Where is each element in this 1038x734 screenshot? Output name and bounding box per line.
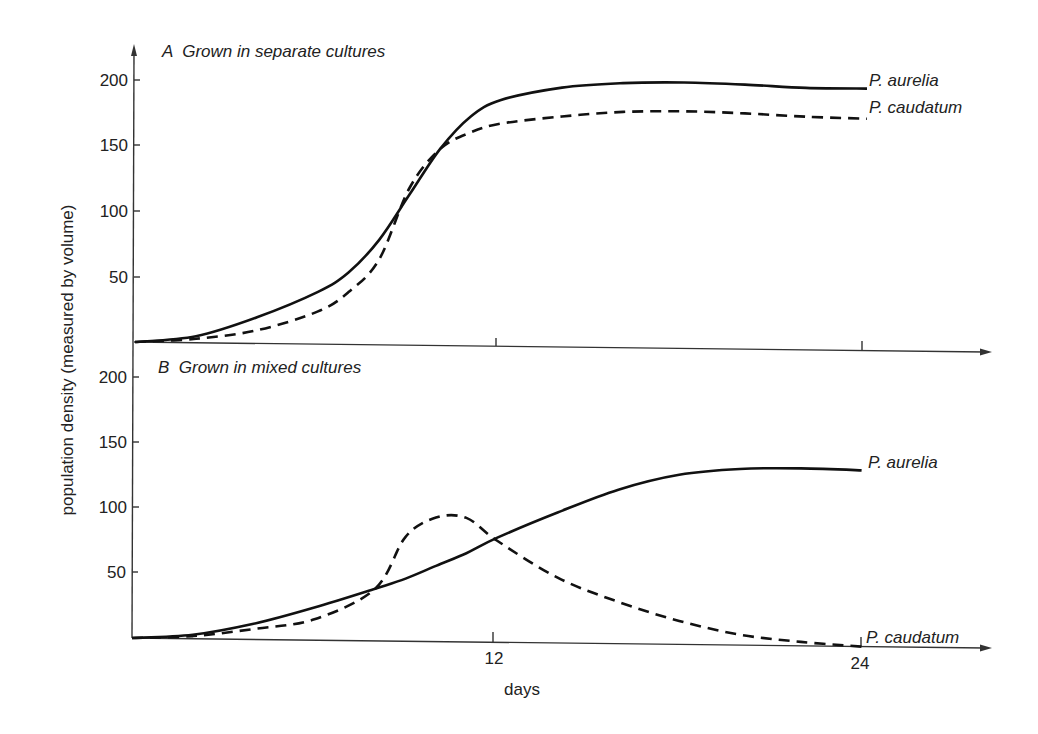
panel-a-aurelia-line [135, 82, 867, 342]
population-chart: 200 150 100 50 A Grown in separate cultu… [0, 0, 1038, 734]
panel-a-caudatum-label: P. caudatum [869, 98, 962, 117]
panel-b-x-axis-arrow-icon [980, 645, 992, 652]
panel-a-title: A Grown in separate cultures [161, 42, 386, 61]
panel-b-title: B Grown in mixed cultures [158, 358, 362, 377]
panel-a-x-axis [134, 342, 985, 352]
panel-a-x-axis-arrow-icon [980, 349, 992, 356]
panel-a-ytick-150: 150 [100, 136, 128, 155]
panel-a-ytick-200: 200 [100, 71, 128, 90]
y-axis [132, 52, 134, 638]
panel-b-caudatum-label: P. caudatum [866, 628, 959, 647]
xtick-12: 12 [485, 649, 504, 668]
panel-b-ytick-50: 50 [107, 563, 126, 582]
xtick-24: 24 [851, 654, 870, 673]
panel-a-ytick-100: 100 [100, 202, 128, 221]
x-axis-label: days [504, 680, 540, 699]
panel-b-aurelia-line [132, 468, 862, 638]
panel-a-aurelia-label: P. aurelia [869, 71, 939, 90]
panel-a-ytick-50: 50 [109, 268, 128, 287]
y-axis-label: population density (measured by volume) [58, 205, 77, 516]
panel-b-aurelia-label: P. aurelia [868, 453, 938, 472]
y-axis-arrow-icon [131, 44, 137, 56]
panel-a-caudatum-line [135, 111, 867, 342]
panel-b-ytick-150: 150 [99, 433, 127, 452]
panel-b-ytick-100: 100 [99, 498, 127, 517]
panel-b-ytick-200: 200 [99, 368, 127, 387]
